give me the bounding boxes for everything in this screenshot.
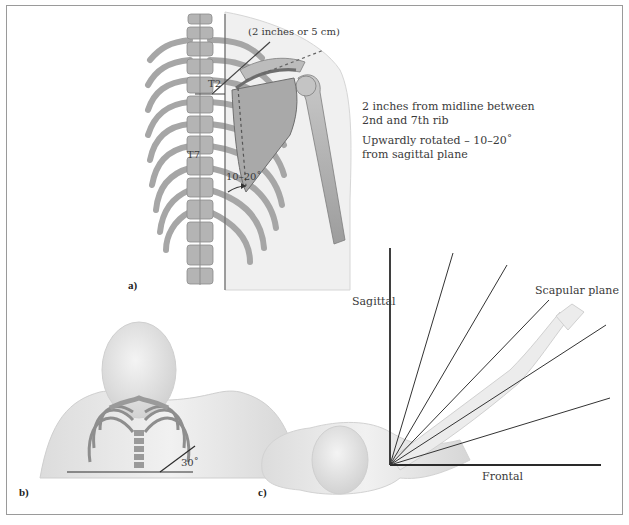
scapular-plane-label: Scapular plane	[535, 284, 619, 298]
note-rotation-line1: Upwardly rotated – 10–20˚	[362, 134, 534, 148]
scapula-angle-label: 10–20˚	[226, 170, 261, 184]
vertebra-t7-label: T7	[187, 148, 200, 162]
panel-a-label: a)	[128, 279, 137, 291]
panel-a-notes: 2 inches from midline between 2nd and 7t…	[362, 100, 534, 162]
distance-label: (2 inches or 5 cm)	[248, 25, 340, 39]
shoulder-angle-label: 30˚	[181, 456, 199, 470]
panel-b-label: b)	[19, 486, 29, 498]
note-position-line1: 2 inches from midline between	[362, 100, 534, 114]
panel-a-illustration	[148, 12, 351, 290]
figure-artwork	[0, 0, 629, 525]
vertebra-t2-label: T2	[208, 77, 221, 91]
note-rotation-line2: from sagittal plane	[362, 148, 534, 162]
panel-b-illustration	[40, 322, 300, 478]
sagittal-axis-label: Sagittal	[352, 295, 396, 309]
frontal-axis-label: Frontal	[482, 470, 523, 484]
panel-c-label: c)	[258, 486, 267, 498]
note-position-line2: 2nd and 7th rib	[362, 114, 534, 128]
